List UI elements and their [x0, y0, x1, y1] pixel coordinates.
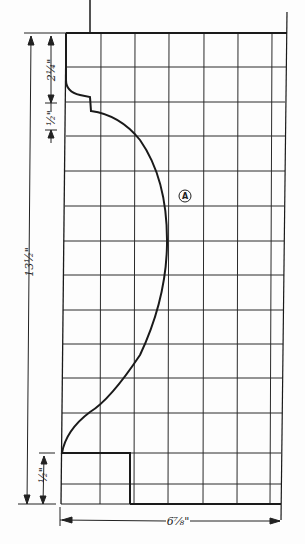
- upper-dimensions: [45, 36, 57, 143]
- profile-curve: [62, 33, 167, 504]
- dim-label-top-section: 2¼": [45, 59, 58, 83]
- drawing-sheet: A: [0, 0, 305, 544]
- dim-label-overall-width: 6⅞": [167, 515, 190, 528]
- callout-label: A: [182, 192, 189, 201]
- dim-label-overall-height: 13½": [23, 247, 36, 277]
- profile-drawing: A: [0, 0, 305, 544]
- dim-label-bottom-step: ½": [37, 467, 50, 483]
- dim-label-upper-step: ½": [45, 110, 58, 126]
- outline: [61, 12, 287, 520]
- grid: [61, 33, 286, 504]
